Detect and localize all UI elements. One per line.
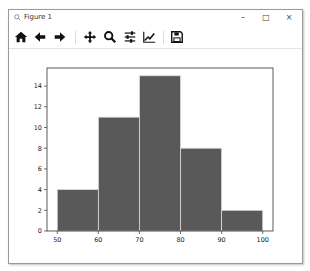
y-tick-label: 6 [38,165,42,173]
x-tick-label: 70 [135,236,143,244]
pan-button[interactable] [83,30,97,44]
toolbar-separator [75,31,76,44]
minimize-button[interactable]: – [232,11,254,24]
floppy-disk-icon [170,30,184,44]
move-icon [83,30,97,44]
sliders-icon [123,30,137,44]
configure-subplots-button[interactable] [123,30,137,44]
x-tick-label: 100 [257,236,269,244]
zoom-button[interactable] [103,30,117,44]
line-chart-icon [142,30,156,44]
y-tick-label: 4 [38,186,42,194]
x-tick-label: 80 [176,236,184,244]
forward-button[interactable] [53,30,67,44]
figure-window: Figure 1 – □ × 024681012 [8,9,303,264]
histogram-bar [98,117,139,231]
histogram-bar [181,148,222,231]
x-tick-label: 50 [53,236,61,244]
save-button[interactable] [170,30,184,44]
title-bar[interactable]: Figure 1 – □ × [9,10,302,26]
arrow-left-icon [33,30,47,44]
home-icon [14,30,28,44]
x-tick-label: 60 [94,236,102,244]
y-tick-label: 8 [38,145,42,153]
close-button[interactable]: × [278,11,300,24]
edit-axis-button[interactable] [142,30,156,44]
y-tick-label: 14 [34,82,42,90]
histogram-bar [222,210,263,231]
y-tick-label: 12 [34,103,42,111]
histogram-plot: 024681012145060708090100 [9,49,302,263]
histogram-bar [139,76,180,231]
home-button[interactable] [14,30,28,44]
figure-app-icon [14,14,21,21]
x-tick-label: 90 [217,236,225,244]
histogram-bar [57,190,98,231]
arrow-right-icon [53,30,67,44]
navigation-toolbar [9,26,302,49]
y-tick-label: 0 [38,227,42,235]
figure-canvas[interactable]: 024681012145060708090100 [9,49,302,263]
back-button[interactable] [33,30,47,44]
maximize-button[interactable]: □ [255,11,277,24]
window-title: Figure 1 [24,13,52,21]
toolbar-separator [163,31,164,44]
magnifier-icon [103,30,117,44]
y-tick-label: 10 [34,124,42,132]
y-tick-label: 2 [38,207,42,215]
